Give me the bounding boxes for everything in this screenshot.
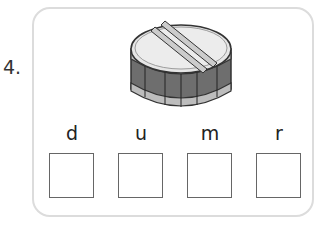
letter-tile: d <box>49 122 95 144</box>
question-number: 4. <box>3 56 21 78</box>
letter-tile: u <box>118 122 164 144</box>
answer-box[interactable] <box>49 153 94 198</box>
letter-tile: m <box>187 122 233 144</box>
letter-tile: r <box>256 122 302 144</box>
answer-box[interactable] <box>118 153 163 198</box>
drum-icon <box>127 17 235 112</box>
answer-box[interactable] <box>187 153 232 198</box>
answer-box[interactable] <box>256 153 301 198</box>
